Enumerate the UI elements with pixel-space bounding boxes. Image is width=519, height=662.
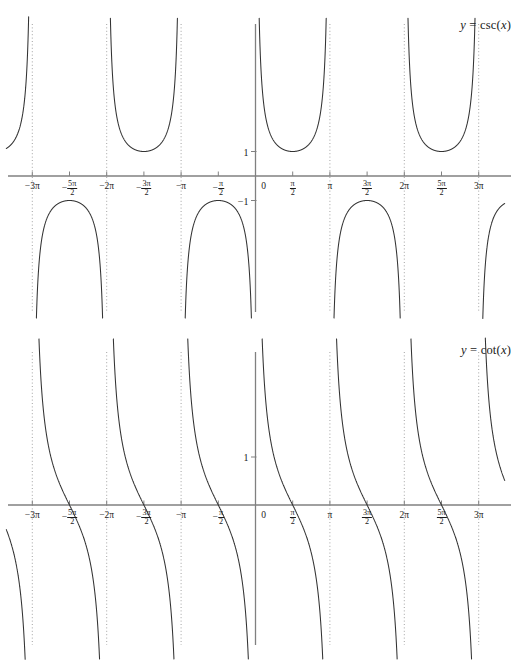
curve-branch (408, 18, 475, 151)
x-tick-label: 3π (474, 182, 484, 192)
curve-branch (110, 18, 177, 151)
curve-branch (185, 201, 251, 319)
trig-figure: y = csc(x) −3π−5π2−2π−3π2−π−π20π2π3π22π5… (0, 0, 519, 662)
curve-branch (259, 18, 326, 151)
curve-branch (113, 339, 174, 659)
y-tick-label: −1 (238, 195, 252, 206)
x-tick-label: π (327, 182, 332, 192)
x-tick-label: 2π (400, 182, 410, 192)
x-tick-label: −3π2 (136, 509, 152, 526)
x-tick-label: −π2 (213, 180, 225, 197)
curve-branch (334, 201, 400, 319)
x-tick-label: −π (176, 511, 186, 521)
cot-plot-title: y = cot(x) (461, 343, 511, 358)
x-tick-label: π2 (290, 180, 296, 197)
curve-branch (188, 339, 249, 659)
curve-branch (6, 17, 28, 149)
x-tick-label: π (327, 511, 332, 521)
cot-title-equals: = (467, 343, 481, 357)
csc-title-equals: = (466, 18, 480, 32)
x-tick-label: 2π (400, 511, 410, 521)
csc-title-paren: ) (507, 18, 511, 32)
x-tick-label: −3π2 (136, 180, 152, 197)
x-tick-label: π2 (290, 509, 296, 526)
x-tick-label: −3π (25, 511, 40, 521)
x-tick-label: 0 (261, 182, 266, 192)
csc-plot-canvas (0, 0, 519, 330)
x-tick-label: −π2 (213, 509, 225, 526)
curve-branch (485, 338, 504, 480)
cot-plot-panel: −3π−5π2−2π−3π2−π−π20π2π3π22π5π23π1 (0, 330, 519, 662)
curve-branch (36, 201, 102, 319)
cot-plot-canvas (0, 330, 519, 662)
cot-title-function: cot( (481, 343, 501, 357)
x-tick-label: −5π2 (62, 180, 78, 197)
csc-plot-title: y = csc(x) (460, 18, 511, 33)
curve-branch (411, 339, 472, 659)
y-tick-label: 1 (244, 146, 252, 157)
csc-title-function: csc( (480, 18, 501, 32)
x-tick-label: −π (176, 182, 186, 192)
curve-branch (483, 204, 505, 319)
x-tick-label: −2π (99, 182, 114, 192)
cot-title-paren: ) (507, 343, 511, 357)
y-tick-label: 1 (244, 452, 252, 463)
curve-branch (337, 339, 398, 659)
curve-branch (39, 339, 100, 659)
x-tick-label: 5π2 (436, 509, 446, 526)
csc-plot-panel: y = csc(x) −3π−5π2−2π−3π2−π−π20π2π3π22π5… (0, 0, 519, 330)
curve-branch (6, 530, 25, 660)
x-tick-label: 0 (261, 511, 266, 521)
x-tick-label: −3π (25, 182, 40, 192)
curve-branch (262, 339, 323, 659)
x-tick-label: −2π (99, 511, 114, 521)
x-tick-label: 3π (474, 511, 484, 521)
x-tick-label: 3π2 (362, 180, 372, 197)
x-tick-label: −5π2 (62, 509, 78, 526)
x-tick-label: 5π2 (436, 180, 446, 197)
x-tick-label: 3π2 (362, 509, 372, 526)
